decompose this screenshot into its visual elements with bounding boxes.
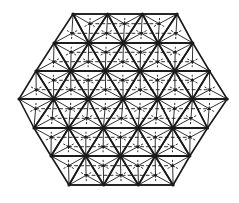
lattice-node <box>206 126 209 129</box>
centroid-node <box>122 79 125 82</box>
lattice-node <box>154 154 157 157</box>
centroid-node <box>137 164 140 167</box>
centroid-node <box>69 107 72 110</box>
centroid-node <box>156 60 159 63</box>
centroid-node <box>51 117 54 120</box>
lattice-edge <box>51 156 69 185</box>
lattice-edge <box>140 43 158 71</box>
lattice-edge <box>36 43 54 71</box>
lattice-edge <box>69 99 89 128</box>
lattice-node <box>34 69 37 72</box>
centroid-node <box>158 22 161 25</box>
centroid-node <box>191 60 194 63</box>
centroid-node <box>87 79 90 82</box>
centroid-node <box>122 60 125 63</box>
centroid-node <box>123 22 126 25</box>
lattice-edge <box>34 99 54 128</box>
centroid-node <box>67 164 70 167</box>
centroid-node <box>102 164 105 167</box>
lattice-node <box>84 154 87 157</box>
centroid-node <box>140 32 143 35</box>
lattice-node <box>137 183 140 186</box>
centroid-node <box>120 117 123 120</box>
lattice-node <box>106 12 109 15</box>
centroid-node <box>138 107 141 110</box>
centroid-node <box>139 51 142 54</box>
lattice-node <box>141 12 144 15</box>
centroid-node <box>174 88 177 91</box>
centroid-node <box>85 136 88 139</box>
lattice-node <box>71 12 74 15</box>
centroid-node <box>173 107 176 110</box>
lattice-node <box>104 69 107 72</box>
centroid-node <box>52 60 55 63</box>
lattice-edge <box>105 43 123 71</box>
lattice-edge <box>120 156 138 185</box>
centroid-node <box>67 145 70 148</box>
lattice-node <box>208 69 211 72</box>
centroid-node <box>86 117 89 120</box>
centroid-node <box>175 32 178 35</box>
lattice-node <box>173 69 176 72</box>
subdivision-line <box>141 14 142 33</box>
centroid-node <box>120 174 123 177</box>
centroid-node <box>208 88 211 91</box>
lattice-edge <box>158 14 177 43</box>
lattice-node <box>156 97 159 100</box>
lattice-node <box>191 97 194 100</box>
centroid-node <box>154 174 157 177</box>
centroid-node <box>154 136 157 139</box>
centroid-node <box>70 88 73 91</box>
centroid-node <box>191 79 194 82</box>
lattice-edge <box>71 43 89 71</box>
centroid-node <box>52 79 55 82</box>
lattice-node <box>226 97 229 100</box>
centroid-node <box>34 107 37 110</box>
centroid-node <box>104 107 107 110</box>
centroid-node <box>208 107 211 110</box>
lattice-node <box>122 97 125 100</box>
centroid-node <box>70 51 73 54</box>
centroid-node <box>171 164 174 167</box>
centroid-node <box>102 145 105 148</box>
lattice-node <box>67 126 70 129</box>
lattice-node <box>52 41 55 44</box>
lattice-edge <box>175 43 193 71</box>
centroid-node <box>35 88 38 91</box>
lattice-node <box>122 41 125 44</box>
lattice-svg <box>0 0 239 203</box>
centroid-node <box>189 136 192 139</box>
lattice-node <box>102 183 105 186</box>
lattice-node <box>49 154 52 157</box>
lattice-edge <box>89 14 108 43</box>
lattice-edge <box>54 14 73 43</box>
centroid-node <box>171 145 174 148</box>
lattice-edge <box>138 99 158 128</box>
subdivision-line <box>176 14 177 33</box>
centroid-node <box>50 136 53 139</box>
subdivision-line <box>123 24 124 43</box>
lattice-edge <box>173 99 193 128</box>
centroid-node <box>105 32 108 35</box>
centroid-node <box>105 51 108 54</box>
lattice-node <box>119 154 122 157</box>
centroid-node <box>87 60 90 63</box>
lattice-node <box>171 126 174 129</box>
lattice-node <box>176 12 179 15</box>
hexagonal-lattice-diagram <box>0 0 239 203</box>
subdivision-line <box>72 14 73 33</box>
centroid-node <box>71 32 74 35</box>
lattice-edge <box>86 156 104 185</box>
lattice-node <box>32 126 35 129</box>
lattice-node <box>87 41 90 44</box>
lattice-node <box>157 41 160 44</box>
lattice-node <box>69 69 72 72</box>
centroid-node <box>137 145 140 148</box>
lattice-node <box>67 183 70 186</box>
lattice-node <box>102 126 105 129</box>
lattice-node <box>137 126 140 129</box>
lattice-edge <box>155 156 173 185</box>
lattice-node <box>139 69 142 72</box>
lattice-node <box>172 183 175 186</box>
centroid-node <box>104 88 107 91</box>
